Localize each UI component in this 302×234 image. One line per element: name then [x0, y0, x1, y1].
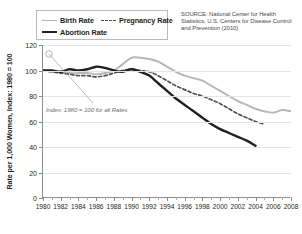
x-axis-tick-label: 2006 — [266, 203, 281, 210]
x-axis-tick-label: 2008 — [284, 203, 299, 210]
x-axis-tick-label: 1982 — [53, 203, 68, 210]
y-axis-tick — [39, 122, 43, 123]
y-axis-tick — [39, 173, 43, 174]
x-axis-tick — [114, 197, 115, 201]
x-axis-tick — [238, 197, 239, 201]
series-line-birth-rate — [43, 57, 291, 112]
x-axis-minor-tick — [140, 197, 141, 200]
x-axis-tick-label: 2000 — [213, 203, 228, 210]
x-axis-tick-label: 1984 — [71, 203, 86, 210]
x-axis-minor-tick — [123, 197, 124, 200]
y-axis-tick — [39, 96, 43, 97]
x-axis-minor-tick — [70, 197, 71, 200]
x-axis-tick — [61, 197, 62, 201]
x-axis-tick — [202, 197, 203, 201]
legend-label-abortion-rate: Abortion Rate — [60, 28, 107, 37]
chart-legend: Birth Rate Pregnancy Rate Abortion Rate — [36, 10, 168, 40]
x-axis-minor-tick — [87, 197, 88, 200]
x-axis-tick — [185, 197, 186, 201]
x-axis-tick-label: 1994 — [160, 203, 175, 210]
x-axis-tick — [273, 197, 274, 201]
x-axis-tick-label: 1980 — [36, 203, 51, 210]
x-axis-tick-label: 1986 — [89, 203, 104, 210]
legend-item-birth-rate: Birth Rate — [42, 16, 94, 25]
x-axis-minor-tick — [247, 197, 248, 200]
x-axis-tick — [149, 197, 150, 201]
y-axis-title: Rate per 1,000 Women, Index: 1980 = 100 — [4, 45, 16, 198]
chart-annotation: Index: 1980 = 100 for all Rates — [46, 106, 127, 113]
legend-line-birth-rate-icon — [42, 20, 57, 21]
x-axis-tick — [256, 197, 257, 201]
x-axis-tick-label: 1988 — [107, 203, 122, 210]
y-axis-tick-label: 0 — [33, 195, 37, 202]
x-axis-tick-label: 2004 — [248, 203, 263, 210]
x-axis-minor-tick — [282, 197, 283, 200]
y-axis-tick-label: 20 — [29, 169, 37, 176]
y-axis-tick — [39, 147, 43, 148]
x-axis-minor-tick — [52, 197, 53, 200]
legend-label-birth-rate: Birth Rate — [60, 16, 94, 25]
x-axis-tick-label: 1992 — [142, 203, 157, 210]
legend-row-bottom: Abortion Rate — [42, 26, 163, 38]
x-axis-tick — [96, 197, 97, 201]
x-axis-tick — [78, 197, 79, 201]
y-axis-tick-label: 60 — [29, 118, 37, 125]
x-axis-minor-tick — [158, 197, 159, 200]
gridline — [43, 71, 291, 72]
chart-figure: Birth Rate Pregnancy Rate Abortion Rate … — [0, 0, 302, 234]
x-axis-tick — [220, 197, 221, 201]
gridline — [43, 96, 291, 97]
y-axis-tick — [39, 45, 43, 46]
x-axis-minor-tick — [194, 197, 195, 200]
y-axis-tick — [39, 71, 43, 72]
y-axis-tick-label: 80 — [29, 93, 37, 100]
x-axis-minor-tick — [211, 197, 212, 200]
x-axis-tick — [167, 197, 168, 201]
legend-row-top: Birth Rate Pregnancy Rate — [42, 14, 163, 26]
x-axis-minor-tick — [105, 197, 106, 200]
y-axis-tick-label: 120 — [25, 42, 37, 49]
gridline — [43, 45, 291, 46]
x-axis-tick — [291, 197, 292, 201]
gridline — [43, 173, 291, 174]
source-note: SOURCE: National Center for Health Stati… — [181, 11, 293, 33]
x-axis-tick-label: 1998 — [195, 203, 210, 210]
gridline — [43, 147, 291, 148]
x-axis-minor-tick — [229, 197, 230, 200]
x-axis-tick — [132, 197, 133, 201]
x-axis-minor-tick — [176, 197, 177, 200]
legend-item-pregnancy-rate: Pregnancy Rate — [101, 16, 173, 25]
plot-area: 020406080100120 198019821984198619881990… — [42, 45, 290, 198]
x-axis-tick-label: 2002 — [231, 203, 246, 210]
legend-label-pregnancy-rate: Pregnancy Rate — [119, 16, 173, 25]
y-axis-tick-label: 100 — [25, 67, 37, 74]
legend-item-abortion-rate: Abortion Rate — [42, 28, 107, 37]
legend-line-pregnancy-rate-icon — [101, 20, 116, 21]
gridline — [43, 122, 291, 123]
x-axis-tick-label: 1996 — [177, 203, 192, 210]
y-axis-tick-label: 40 — [29, 144, 37, 151]
x-axis-tick-label: 1990 — [124, 203, 139, 210]
legend-line-abortion-rate-icon — [42, 31, 57, 33]
x-axis-minor-tick — [264, 197, 265, 200]
x-axis-tick — [43, 197, 44, 201]
